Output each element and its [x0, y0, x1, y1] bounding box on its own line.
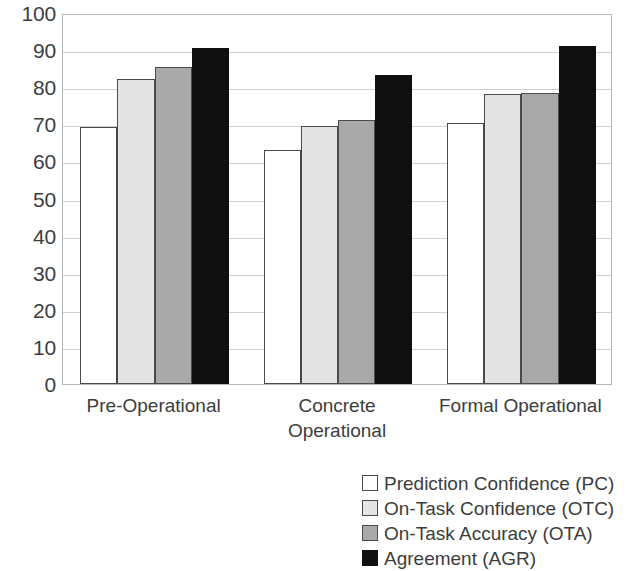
y-axis: 0102030405060708090100 [0, 0, 56, 400]
legend: Prediction Confidence (PC)On-Task Confid… [362, 471, 638, 571]
y-tick-label-40: 40 [2, 226, 56, 247]
x-axis-label-line: Formal Operational [429, 393, 612, 418]
legend-label: On-Task Confidence (OTC) [384, 498, 614, 519]
legend-label: Prediction Confidence (PC) [384, 473, 614, 494]
y-tick-label-20: 20 [2, 300, 56, 321]
legend-item: Prediction Confidence (PC) [362, 471, 638, 495]
x-axis-label: ConcreteOperational [245, 393, 428, 443]
y-tick-label-80: 80 [2, 77, 56, 98]
x-axis-label-line: Concrete [245, 393, 428, 418]
y-tick-label-70: 70 [2, 114, 56, 135]
x-axis-label-line: Pre-Operational [62, 393, 245, 418]
legend-item: Agreement (AGR) [362, 546, 638, 570]
legend-swatch-icon [362, 475, 378, 491]
bar-agr [559, 46, 596, 384]
y-tick-label-10: 10 [2, 337, 56, 358]
x-axis-category-labels: Pre-OperationalConcreteOperationalFormal… [62, 393, 612, 453]
y-tick-label-60: 60 [2, 151, 56, 172]
y-tick-label-100: 100 [2, 3, 56, 24]
bar-pc [447, 123, 484, 384]
x-axis-label: Formal Operational [429, 393, 612, 418]
bar-group [246, 15, 429, 384]
x-axis-label-line: Operational [245, 418, 428, 443]
legend-item: On-Task Accuracy (OTA) [362, 521, 638, 545]
y-tick-label-50: 50 [2, 189, 56, 210]
bar-pc [264, 150, 301, 384]
bar-otc [117, 79, 154, 384]
bar-ota [521, 93, 558, 384]
bar-ota [338, 120, 375, 384]
legend-swatch-icon [362, 550, 378, 566]
y-tick-label-0: 0 [2, 374, 56, 395]
plot-area [62, 14, 612, 385]
y-tick-label-30: 30 [2, 263, 56, 284]
bar-pc [80, 127, 117, 384]
legend-label: On-Task Accuracy (OTA) [384, 523, 593, 544]
legend-swatch-icon [362, 525, 378, 541]
bar-group [63, 15, 246, 384]
y-tick-label-90: 90 [2, 40, 56, 61]
x-axis-label: Pre-Operational [62, 393, 245, 418]
bar-otc [301, 126, 338, 384]
legend-swatch-icon [362, 500, 378, 516]
bar-agr [375, 75, 412, 384]
legend-item: On-Task Confidence (OTC) [362, 496, 638, 520]
bar-ota [155, 67, 192, 384]
bar-group [430, 15, 613, 384]
legend-label: Agreement (AGR) [384, 548, 536, 569]
bar-otc [484, 94, 521, 384]
bar-agr [192, 48, 229, 384]
